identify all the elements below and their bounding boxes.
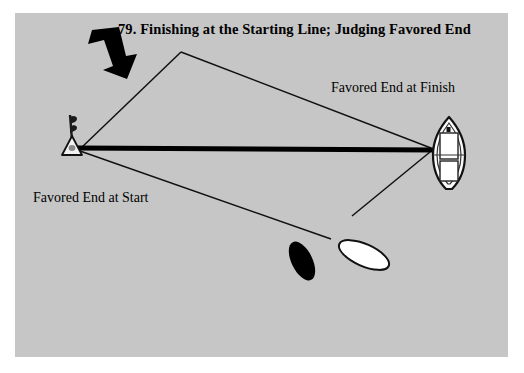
mark-buoy-icon <box>62 115 82 155</box>
figure-title: 79. Finishing at the Starting Line; Judg… <box>118 21 471 38</box>
committee-boat-icon <box>433 117 465 189</box>
white-sailboat-icon <box>335 234 393 276</box>
label-favored-end-at-finish: Favored End at Finish <box>331 80 455 96</box>
black-sailboat-icon <box>283 238 320 285</box>
layline-to-white-boat-line <box>352 152 430 216</box>
label-favored-end-at-start: Favored End at Start <box>33 190 148 206</box>
figure-illustration <box>0 0 524 373</box>
start-finish-line <box>78 148 434 150</box>
figure-page: 79. Finishing at the Starting Line; Judg… <box>0 0 524 373</box>
windward-leg-right-line <box>181 52 431 148</box>
